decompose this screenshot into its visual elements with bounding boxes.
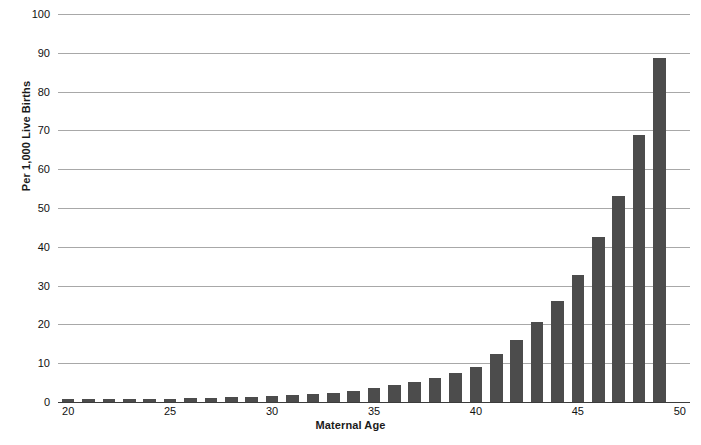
x-tick-label-20: 20: [48, 405, 88, 418]
bar-age-43: [531, 322, 544, 402]
bar-age-46: [592, 237, 605, 402]
x-tick-label-40: 40: [456, 405, 496, 418]
x-axis-line: [58, 402, 690, 403]
bar-age-32: [307, 394, 320, 402]
y-tick-label-100: 100: [10, 9, 50, 20]
bar-age-39: [449, 373, 462, 402]
y-axis-tick-labels: 0102030405060708090100: [8, 14, 50, 402]
y-tick-label-20: 20: [10, 319, 50, 330]
y-tick-label-30: 30: [10, 281, 50, 292]
bar-age-41: [490, 354, 503, 403]
bar-chart: Per 1,000 Live Births 010203040506070809…: [0, 0, 701, 445]
x-tick-label-45: 45: [558, 405, 598, 418]
bar-age-31: [286, 395, 299, 402]
bar-age-48: [633, 135, 646, 402]
bar-age-36: [388, 385, 401, 402]
y-tick-label-40: 40: [10, 242, 50, 253]
x-tick-label-50: 50: [660, 405, 700, 418]
x-tick-label-30: 30: [252, 405, 292, 418]
bar-age-42: [510, 340, 523, 402]
x-tick-label-25: 25: [150, 405, 190, 418]
y-tick-label-10: 10: [10, 358, 50, 369]
y-tick-label-90: 90: [10, 48, 50, 59]
y-tick-label-70: 70: [10, 125, 50, 136]
bar-age-37: [408, 382, 421, 402]
bar-age-40: [470, 367, 483, 402]
bars: [58, 14, 690, 402]
bar-age-35: [368, 388, 381, 402]
x-axis-title: Maternal Age: [0, 419, 701, 431]
x-tick-label-35: 35: [354, 405, 394, 418]
bar-age-33: [327, 393, 340, 402]
bar-age-38: [429, 378, 442, 402]
bar-age-45: [572, 275, 585, 402]
y-tick-label-50: 50: [10, 203, 50, 214]
bar-age-47: [612, 196, 625, 402]
bar-age-44: [551, 301, 564, 402]
y-tick-label-60: 60: [10, 164, 50, 175]
bar-age-49: [653, 58, 666, 402]
plot-area: [58, 14, 690, 402]
y-tick-label-80: 80: [10, 87, 50, 98]
bar-age-34: [347, 391, 360, 402]
y-tick-label-0: 0: [10, 397, 50, 408]
